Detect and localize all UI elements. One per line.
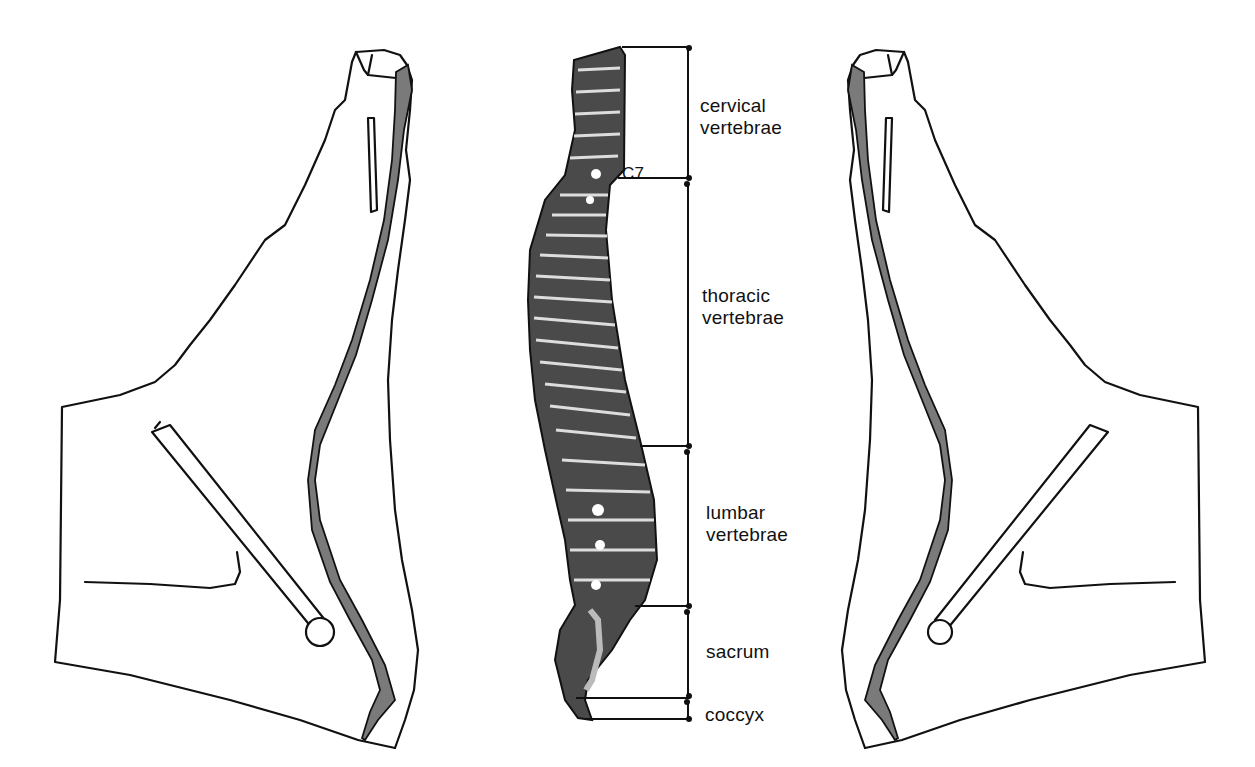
label-thoracic-line2: vertebrae	[702, 307, 784, 329]
label-lumbar-line1: lumbar	[706, 502, 788, 524]
label-lumbar: lumbar vertebrae	[706, 502, 788, 546]
label-cervical-line1: cervical	[700, 95, 782, 117]
label-thoracic: thoracic vertebrae	[702, 285, 784, 329]
label-c7-marker: C7	[622, 163, 644, 185]
vertebral-column	[528, 47, 657, 720]
spine-diagram	[0, 0, 1255, 767]
label-lumbar-line2: vertebrae	[706, 524, 788, 546]
label-cervical-line2: vertebrae	[700, 117, 782, 139]
label-cervical: cervical vertebrae	[700, 95, 782, 139]
label-thoracic-line1: thoracic	[702, 285, 784, 307]
label-coccyx: coccyx	[705, 704, 764, 726]
label-sacrum: sacrum	[706, 641, 770, 663]
